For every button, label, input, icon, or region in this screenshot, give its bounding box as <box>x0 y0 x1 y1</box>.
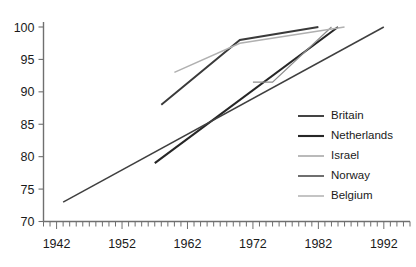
y-axis-tick-label: 100 <box>14 21 35 35</box>
y-axis-tick-label: 85 <box>21 118 35 132</box>
y-axis-tick-label: 70 <box>21 215 35 229</box>
line-chart: 707580859095100 194219521962197219821992… <box>0 0 416 267</box>
legend-label-norway: Norway <box>331 169 370 181</box>
chart-legend: BritainNetherlandsIsraelNorwayBelgium <box>298 109 393 201</box>
x-axis-tick-label: 1982 <box>304 237 332 251</box>
x-axis-tick-label: 1972 <box>239 237 267 251</box>
x-axis: 194219521962197219821992 <box>43 222 410 251</box>
series-line-belgium <box>174 27 344 72</box>
legend-label-britain: Britain <box>331 109 364 121</box>
x-axis-tick-label: 1952 <box>108 237 136 251</box>
y-axis-tick-label: 80 <box>21 150 35 164</box>
legend-label-israel: Israel <box>331 149 359 161</box>
chart-canvas: 707580859095100 194219521962197219821992… <box>0 0 416 267</box>
series-line-netherlands <box>155 27 338 163</box>
y-axis-tick-label: 95 <box>21 53 35 67</box>
y-axis: 707580859095100 <box>14 21 44 230</box>
legend-label-netherlands: Netherlands <box>331 129 393 141</box>
series-line-britain <box>161 27 318 105</box>
x-axis-tick-label: 1992 <box>370 237 398 251</box>
y-axis-tick-label: 75 <box>21 183 35 197</box>
y-axis-tick-label: 90 <box>21 85 35 99</box>
legend-label-belgium: Belgium <box>331 189 373 201</box>
x-axis-tick-label: 1962 <box>174 237 202 251</box>
x-axis-tick-label: 1942 <box>43 237 71 251</box>
